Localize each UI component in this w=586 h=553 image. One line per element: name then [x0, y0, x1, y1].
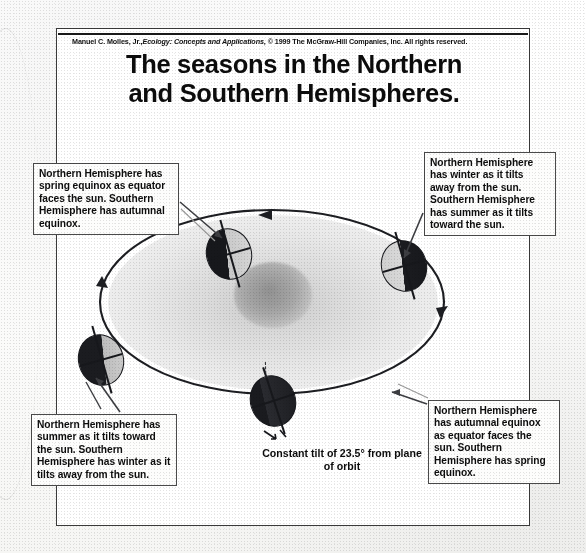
- credit-rights: , © 1999 The McGraw-Hill Companies, Inc.…: [264, 37, 467, 46]
- callout-spring-equinox: Northern Hemisphere has spring equinox a…: [33, 163, 179, 235]
- figure-title-line-1: The seasons in the Northern: [66, 50, 522, 79]
- credit-divider-rule: [58, 33, 528, 35]
- callout-northern-summer: Northern Hemisphere has summer as it til…: [31, 414, 177, 486]
- tilt-angle-marker: [262, 428, 288, 442]
- figure-title-line-2: and Southern Hemispheres.: [66, 79, 522, 108]
- callout-autumnal-equinox: Northern Hemisphere has autumnal equinox…: [428, 400, 560, 484]
- orbit-ellipse: [100, 210, 444, 394]
- callout-northern-winter: Northern Hemisphere has winter as it til…: [424, 152, 556, 236]
- credit-author: Manuel C. Molles, Jr.,: [72, 37, 143, 46]
- tilt-caption: Constant tilt of 23.5° from plane of orb…: [262, 447, 422, 472]
- credit-work-title: Ecology: Concepts and Applications: [143, 37, 264, 46]
- copyright-credit-line: Manuel C. Molles, Jr.,Ecology: Concepts …: [72, 37, 522, 47]
- orbit-arrow-top: [258, 210, 272, 220]
- figure-title: The seasons in the Northern and Southern…: [66, 50, 522, 108]
